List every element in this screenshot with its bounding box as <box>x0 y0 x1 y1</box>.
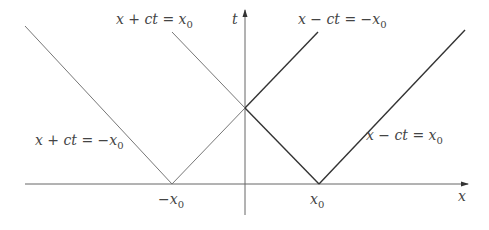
characteristics-diagram <box>0 0 489 230</box>
label-x-plus-ct-eq-x0: x + ct = x0 <box>116 12 193 30</box>
line-x-minus-ct-eq-neg-x0-upper <box>245 32 318 108</box>
line-x-plus-ct-eq-neg-x0 <box>25 26 172 184</box>
line-x-minus-ct-eq-neg-x0-lower <box>172 108 245 184</box>
label-x-plus-ct-eq-neg-x0: x + ct = −x0 <box>35 133 124 151</box>
line-x-plus-ct-eq-x0-lower <box>245 108 319 184</box>
label-x-minus-ct-eq-neg-x0: x − ct = −x0 <box>298 12 387 30</box>
t-axis-label: t <box>232 12 238 26</box>
label-x-minus-ct-eq-x0: x − ct = x0 <box>366 128 443 146</box>
tick-pos-x0: x0 <box>310 192 324 210</box>
line-x-minus-ct-eq-x0 <box>319 30 465 184</box>
x-axis-label: x <box>458 189 466 203</box>
tick-neg-x0: −x0 <box>158 192 184 210</box>
line-x-plus-ct-eq-x0-upper <box>172 32 245 108</box>
